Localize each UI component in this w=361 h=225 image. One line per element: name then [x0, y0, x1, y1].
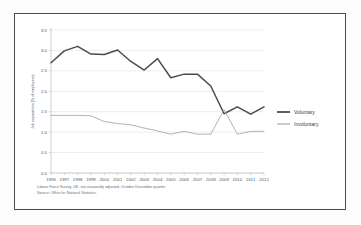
y-tick-label: 3.0 — [41, 48, 48, 53]
series-line-voluntary — [51, 46, 264, 114]
x-tick-label: 2001 — [113, 177, 123, 182]
x-tick-label: 2008 — [206, 177, 216, 182]
chart-plot-wrapper: 0.00.51.01.52.02.53.03.5Job separations … — [15, 14, 347, 211]
x-tick-label: 2006 — [179, 177, 189, 182]
y-tick-label: 2.5 — [41, 68, 48, 73]
x-tick-label: 1999 — [86, 177, 96, 182]
legend-label-involuntary: Involuntary — [294, 121, 319, 127]
x-tick-label: 2010 — [233, 177, 243, 182]
x-tick-label: 2002 — [126, 177, 136, 182]
y-tick-label: 1.5 — [41, 109, 48, 114]
x-tick-label: 1996 — [46, 177, 56, 182]
y-tick-label: 3.5 — [41, 28, 48, 33]
line-chart: 0.00.51.01.52.02.53.03.5Job separations … — [15, 14, 347, 211]
screenshot-page: 0.00.51.01.52.02.53.03.5Job separations … — [0, 0, 361, 225]
y-tick-label: 2.0 — [41, 89, 48, 94]
x-tick-label: 2004 — [153, 177, 163, 182]
series-line-involuntary — [51, 110, 264, 135]
x-tick-label: 2011 — [246, 177, 256, 182]
y-tick-label: 0.5 — [41, 150, 48, 155]
x-tick-label: 1998 — [73, 177, 83, 182]
y-axis-title: Job separations (% of employees) — [31, 74, 35, 128]
y-tick-label: 1.0 — [41, 130, 48, 135]
y-tick-label: 0.0 — [41, 171, 48, 176]
x-tick-label: 2012 — [259, 177, 269, 182]
x-tick-label: 2000 — [99, 177, 109, 182]
chart-footnote: Labour Force Survey, UK, not seasonally … — [37, 184, 327, 196]
x-tick-label: 2003 — [139, 177, 149, 182]
chart-frame: 0.00.51.01.52.02.53.03.5Job separations … — [14, 13, 346, 210]
legend-label-voluntary: Voluntary — [294, 109, 315, 115]
footnote-line-2: Source: Office for National Statistics. — [37, 190, 327, 196]
x-tick-label: 2007 — [193, 177, 203, 182]
x-tick-label: 2009 — [219, 177, 229, 182]
x-tick-label: 1997 — [60, 177, 70, 182]
x-tick-label: 2005 — [166, 177, 176, 182]
